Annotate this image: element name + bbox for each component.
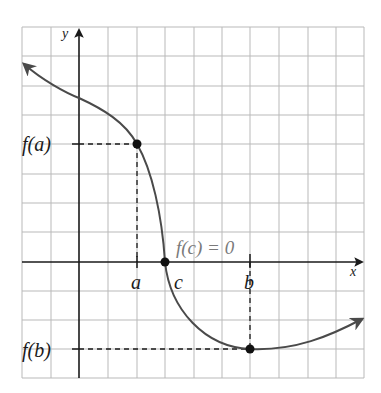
b-label: b bbox=[244, 271, 254, 293]
function-curve bbox=[24, 64, 362, 349]
function-graph: y x f(a) f(b) f(c) = 0 a c b bbox=[0, 0, 381, 393]
x-axis-label: x bbox=[349, 264, 357, 279]
c-label: c bbox=[174, 271, 183, 293]
point-c bbox=[161, 258, 170, 267]
grid bbox=[22, 27, 364, 378]
ivt-diagram: y x f(a) f(b) f(c) = 0 a c b bbox=[0, 0, 381, 393]
fa-label: f(a) bbox=[22, 133, 51, 156]
a-label: a bbox=[131, 271, 141, 293]
point-b bbox=[246, 345, 255, 354]
fb-label: f(b) bbox=[22, 339, 51, 362]
y-axis-label: y bbox=[60, 26, 69, 41]
point-a bbox=[133, 140, 142, 149]
fc-label: f(c) = 0 bbox=[176, 237, 235, 259]
